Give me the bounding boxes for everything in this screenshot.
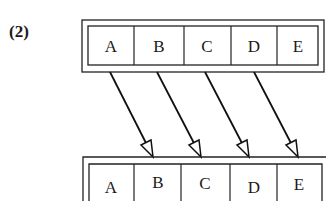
top-cell-d: D [248, 37, 260, 56]
bottom-cell-a: A [105, 178, 118, 197]
top-cell-c: C [201, 37, 212, 56]
bottom-cell-c: C [199, 174, 210, 193]
bottom-cell-e: E [294, 175, 304, 194]
bottom-cell-d: D [248, 178, 260, 197]
bottom-cell-b: B [152, 173, 163, 192]
arrow-c-to-d-icon [205, 72, 249, 157]
shift-arrows [110, 72, 298, 157]
arrow-a-to-b-icon [110, 72, 153, 157]
arrow-d-to-e-icon [254, 72, 298, 157]
array-shift-diagram: A B C D E A B C D [0, 0, 326, 201]
top-cell-a: A [105, 37, 118, 56]
top-array: A B C D E [82, 20, 324, 72]
bottom-array: A B C D E [83, 157, 326, 201]
arrow-b-to-c-icon [157, 72, 201, 157]
top-cell-b: B [153, 37, 164, 56]
top-cell-e: E [293, 37, 303, 56]
